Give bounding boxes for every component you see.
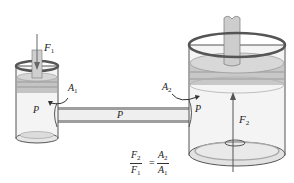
equation-area-ratio: A2 A1 [157,150,169,178]
area-large-label: A2 [162,82,172,94]
equation-force-ratio: F2 F1 [130,150,142,178]
pressure-small-label: P [33,105,39,115]
connecting-tube [56,107,192,123]
force-small-label: F1 [44,42,54,55]
equation-equals: = [149,157,155,168]
force-large-label: F2 [239,114,249,127]
hydraulic-press-diagram [0,0,294,183]
pressure-large-label: P [195,104,201,114]
large-cylinder [189,16,285,172]
pressure-tube-label: P [117,110,123,120]
area-small-label: A1 [68,83,78,95]
